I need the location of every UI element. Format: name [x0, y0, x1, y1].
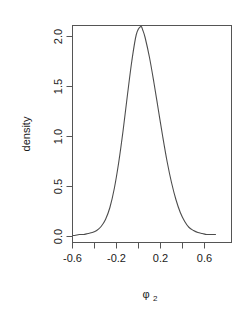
y-tick-label-2-0: 2.0	[52, 29, 64, 44]
y-tick-label-1-5: 1.5	[52, 79, 64, 94]
plot-canvas: 2.0 1.5 1.0 0.5 0.0 density -0.6 -0.2 0.…	[0, 0, 247, 318]
x-axis-tick-labels: -0.6 -0.2 0.2 0.6	[63, 252, 212, 264]
x-tick-label-neg0-6: -0.6	[63, 252, 82, 264]
x-axis-title-symbol: φ	[142, 288, 149, 300]
y-tick-label-0-0: 0.0	[52, 229, 64, 244]
x-axis-ticks	[73, 243, 205, 249]
x-tick-label-0-6: 0.6	[197, 252, 212, 264]
y-axis-tick-labels: 2.0 1.5 1.0 0.5 0.0	[52, 29, 64, 244]
y-axis-ticks	[67, 37, 73, 237]
x-axis-title: φ 2	[142, 288, 158, 303]
x-tick-label-neg0-2: -0.2	[107, 252, 126, 264]
x-tick-label-0-2: 0.2	[153, 252, 168, 264]
y-tick-label-0-5: 0.5	[52, 179, 64, 194]
y-tick-label-1-0: 1.0	[52, 129, 64, 144]
plot-frame	[73, 26, 232, 243]
y-axis-title: density	[20, 116, 32, 151]
density-curve	[70, 26, 215, 235]
x-axis-title-subscript: 2	[153, 294, 158, 303]
density-plot-figure: 2.0 1.5 1.0 0.5 0.0 density -0.6 -0.2 0.…	[0, 0, 247, 318]
